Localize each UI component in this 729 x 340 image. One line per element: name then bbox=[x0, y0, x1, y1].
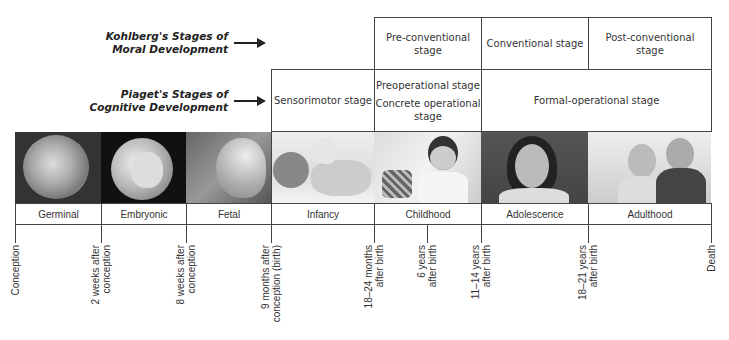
piaget-label-line1: Piaget's Stages of bbox=[121, 88, 228, 100]
child-photo bbox=[374, 132, 481, 203]
kohlberg-label-line1: Kohlberg's Stages of bbox=[106, 30, 228, 42]
marker-conception-line1: Conception bbox=[10, 245, 21, 330]
marker-18-24-months-line2: after birth bbox=[374, 245, 385, 330]
preoperational-label: Preoperational stage bbox=[376, 79, 480, 92]
tick-conception bbox=[15, 225, 16, 243]
marker-18-21-years: 18–21 years after birth bbox=[577, 245, 599, 330]
adolescent-photo bbox=[481, 132, 588, 203]
zygote-photo bbox=[15, 132, 101, 203]
sensorimotor-label: Sensorimotor stage bbox=[274, 94, 372, 107]
stage-label-fetal: Fetal bbox=[186, 203, 271, 225]
fetus-photo bbox=[186, 132, 271, 203]
adults-photo bbox=[588, 132, 711, 203]
piaget-sensorimotor-box: Sensorimotor stage bbox=[271, 69, 375, 132]
marker-11-14-years-line1: 11–14 years bbox=[470, 245, 481, 330]
postconventional-label-2: stage bbox=[636, 44, 664, 57]
kohlberg-row-label: Kohlberg's Stages of Moral Development bbox=[100, 30, 228, 56]
marker-birth-line2: conception (birth) bbox=[271, 245, 282, 330]
marker-18-24-months: 18–24 months after birth bbox=[363, 245, 385, 330]
marker-death-line1: Death bbox=[706, 245, 717, 330]
piaget-label-line2: Cognitive Development bbox=[90, 101, 228, 113]
conventional-label: Conventional stage bbox=[487, 37, 584, 50]
piaget-row-label: Piaget's Stages of Cognitive Development bbox=[80, 88, 228, 114]
marker-11-14-years: 11–14 years after birth bbox=[470, 245, 492, 330]
kohlberg-postconventional-box: Post-conventional stage bbox=[588, 17, 712, 70]
marker-2-weeks-line2: conception bbox=[101, 245, 112, 330]
kohlberg-label-line2: Moral Development bbox=[112, 43, 228, 55]
concrete-operational-label: Concrete operational bbox=[375, 97, 480, 110]
tick-6-years bbox=[427, 225, 428, 243]
tick-2-weeks bbox=[101, 225, 102, 243]
marker-birth-line1: 9 months after bbox=[260, 245, 271, 330]
kohlberg-conventional-box: Conventional stage bbox=[481, 17, 589, 70]
tick-11-14-years bbox=[481, 225, 482, 243]
marker-death: Death bbox=[706, 245, 717, 330]
concrete-operational-label-2: stage bbox=[414, 110, 442, 123]
marker-8-weeks-line1: 8 weeks after bbox=[175, 245, 186, 330]
kohlberg-arrow-icon bbox=[234, 42, 264, 44]
preconventional-label: Pre-conventional bbox=[386, 31, 470, 44]
preconventional-label-2: stage bbox=[414, 44, 442, 57]
marker-18-21-years-line1: 18–21 years bbox=[577, 245, 588, 330]
piaget-preop-concrete-box: Preoperational stage Concrete operationa… bbox=[374, 69, 482, 132]
embryo-photo bbox=[101, 132, 186, 203]
tick-death bbox=[711, 225, 712, 243]
piaget-formal-operational-box: Formal-operational stage bbox=[481, 69, 712, 132]
stage-label-adulthood: Adulthood bbox=[588, 203, 711, 225]
piaget-arrow-icon bbox=[234, 100, 264, 102]
marker-conception: Conception bbox=[10, 245, 21, 330]
marker-18-21-years-line2: after birth bbox=[588, 245, 599, 330]
postconventional-label: Post-conventional bbox=[606, 31, 695, 44]
tick-birth bbox=[271, 132, 272, 243]
marker-2-weeks: 2 weeks after conception bbox=[90, 245, 112, 330]
stage-label-germinal: Germinal bbox=[15, 203, 101, 225]
marker-2-weeks-line1: 2 weeks after bbox=[90, 245, 101, 330]
marker-birth: 9 months after conception (birth) bbox=[260, 245, 282, 330]
marker-11-14-years-line2: after birth bbox=[481, 245, 492, 330]
marker-6-years-line2: after birth bbox=[427, 245, 438, 330]
tick-8-weeks bbox=[186, 225, 187, 243]
marker-8-weeks: 8 weeks after conception bbox=[175, 245, 197, 330]
stage-label-adolescence: Adolescence bbox=[481, 203, 588, 225]
stage-label-infancy: Infancy bbox=[271, 203, 374, 225]
marker-6-years-line1: 6 years bbox=[416, 245, 427, 330]
tick-18-24-months bbox=[374, 225, 375, 243]
formal-operational-label: Formal-operational stage bbox=[534, 94, 660, 107]
kohlberg-preconventional-box: Pre-conventional stage bbox=[374, 17, 482, 70]
marker-18-24-months-line1: 18–24 months bbox=[363, 245, 374, 330]
marker-6-years: 6 years after birth bbox=[416, 245, 438, 330]
stage-label-childhood: Childhood bbox=[374, 203, 481, 225]
tick-18-21-years bbox=[588, 225, 589, 243]
stage-label-embryonic: Embryonic bbox=[101, 203, 186, 225]
infant-photo bbox=[271, 132, 374, 203]
marker-8-weeks-line2: conception bbox=[186, 245, 197, 330]
